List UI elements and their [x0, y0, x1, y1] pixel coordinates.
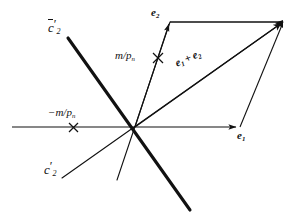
- label-e1: e1: [237, 130, 245, 143]
- label-c-2-prime: c′2: [44, 160, 57, 178]
- label-m-over-pn: m/pn: [115, 50, 135, 63]
- sum-vector-diagonal: [135, 24, 281, 128]
- label-c-bar-2-prime-base: c: [48, 21, 54, 34]
- label-e1-sub: 1: [242, 135, 245, 142]
- c-bar-2-prime-line: [68, 38, 190, 210]
- label-neg-m-over-pn: −m/pn: [48, 107, 75, 120]
- label-neg-m-over-pn-sub: n: [72, 112, 75, 119]
- cross-mark-m-over-pn: [153, 53, 163, 63]
- e2-vector: [135, 24, 169, 127]
- label-neg-m-over-pn-text: −m/p: [48, 106, 72, 118]
- diagram-canvas: [0, 0, 293, 224]
- label-m-over-pn-sub: n: [132, 55, 135, 62]
- label-c-bar-2-prime: c′2: [48, 18, 61, 36]
- label-e2: e2: [151, 7, 159, 20]
- label-c-2-prime-sub: 2: [52, 169, 56, 178]
- vector-diagram-figure: c′2 c′2 m/pn −m/pn e2 e1 e1+e2: [0, 0, 293, 224]
- label-c-bar-2-prime-sub: 2: [56, 27, 60, 36]
- label-m-over-pn-text: m/p: [115, 49, 132, 61]
- label-e2-sub: 2: [156, 12, 159, 19]
- parallelogram-right-edge: [240, 24, 283, 128]
